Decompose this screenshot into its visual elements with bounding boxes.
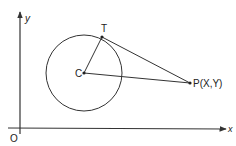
- point-t: [100, 35, 103, 38]
- x-axis: [8, 128, 226, 129]
- center-label: C: [75, 68, 82, 79]
- external-point-label: P(X,Y): [193, 78, 222, 89]
- point-p: [188, 81, 191, 84]
- y-axis-label: y: [24, 13, 31, 24]
- radius-ct: [84, 37, 102, 73]
- origin-label: O: [10, 133, 18, 144]
- x-axis-label: x: [227, 124, 233, 134]
- tangent-diagram: y O x C T P(X,Y): [0, 0, 236, 146]
- point-c: [82, 71, 85, 74]
- tangent-point-label: T: [101, 23, 107, 34]
